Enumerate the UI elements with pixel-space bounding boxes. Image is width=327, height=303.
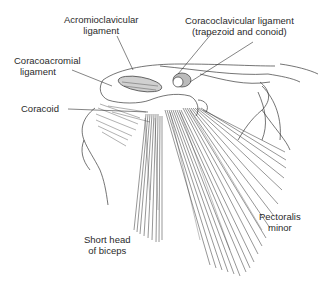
label-coracoacromial-ligament: Coracoacromial ligament [14,55,81,77]
pectoralis-minor-muscle [165,108,286,276]
label-line: of biceps [84,245,130,256]
label-line: ligament [14,66,81,77]
label-line: Short head [84,234,130,245]
anatomy-illustration [0,0,327,303]
label-short-head-of-biceps: Short head of biceps [84,234,130,256]
label-line: ligament [64,25,138,36]
label-coracoclavicular-ligament: Coracoclavicular ligament (trapezoid and… [185,15,294,37]
label-line: Coracoacromial [14,55,81,66]
label-line: Coracoid [21,103,59,114]
leader-acromioclavicular [117,36,133,70]
label-acromioclavicular-ligament: Acromioclavicular ligament [64,14,138,36]
label-coracoid: Coracoid [21,103,59,114]
short-head-of-biceps-muscle [134,114,162,242]
label-line: Acromioclavicular [64,14,138,25]
label-line: minor [259,222,301,233]
label-pectoralis-minor: Pectoralis minor [259,211,301,233]
humeral-head-outline [82,108,108,205]
label-line: Pectoralis [259,211,301,222]
label-line: Coracoclavicular ligament [185,15,294,26]
leader-coracoclavicular-1 [178,33,212,74]
label-line: (trapezoid and conoid) [185,26,294,37]
